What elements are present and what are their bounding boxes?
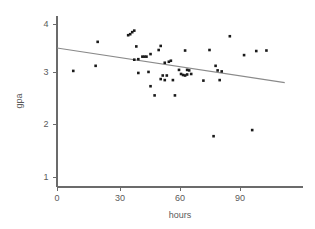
x-tick-label-90: 90 — [235, 193, 245, 203]
data-point — [172, 79, 175, 82]
data-point — [159, 45, 162, 48]
data-point — [174, 94, 177, 97]
data-point — [159, 78, 162, 81]
data-point — [137, 58, 140, 61]
data-point — [161, 74, 164, 77]
x-tick-label-30: 30 — [115, 193, 125, 203]
data-point — [137, 72, 140, 75]
data-point — [147, 71, 150, 74]
x-axis-ticks — [57, 187, 240, 191]
data-point — [229, 35, 232, 38]
data-point — [166, 74, 169, 77]
data-point — [96, 41, 99, 44]
plot-canvas: 4 3 2 1 0 30 60 90 hours gpa — [0, 0, 315, 229]
data-point — [202, 79, 205, 82]
x-axis-title: hours — [169, 210, 192, 220]
y-axis-title: gpa — [14, 93, 24, 108]
data-point — [149, 53, 152, 56]
data-point — [220, 70, 223, 73]
data-point — [186, 73, 189, 76]
data-point — [214, 65, 217, 68]
data-point — [251, 129, 254, 132]
data-point — [212, 135, 215, 138]
data-point — [163, 61, 166, 64]
data-point — [208, 49, 211, 52]
scatter-points-group — [72, 29, 268, 137]
data-point — [216, 69, 219, 72]
data-point — [163, 79, 166, 82]
data-point — [133, 58, 136, 61]
data-point — [153, 94, 156, 97]
data-point — [190, 73, 193, 76]
x-tick-label-0: 0 — [54, 193, 59, 203]
x-tick-label-60: 60 — [175, 193, 185, 203]
data-point — [188, 69, 191, 72]
data-point — [145, 55, 148, 58]
data-point — [135, 45, 138, 48]
data-point — [94, 65, 97, 68]
data-point — [133, 29, 136, 32]
y-tick-label-3: 3 — [43, 67, 48, 77]
y-tick-label-4: 4 — [43, 19, 48, 29]
data-point — [170, 59, 173, 62]
y-tick-label-2: 2 — [43, 119, 48, 129]
y-axis-ticks — [53, 24, 57, 177]
data-point — [178, 69, 181, 72]
data-point — [243, 54, 246, 57]
regression-line — [57, 48, 285, 83]
data-point — [157, 49, 160, 52]
data-point — [72, 70, 75, 73]
data-point — [218, 79, 221, 82]
scatter-plot-figure: 4 3 2 1 0 30 60 90 hours gpa — [0, 0, 315, 229]
data-point — [255, 50, 258, 53]
data-point — [265, 49, 268, 52]
data-point — [184, 49, 187, 52]
data-point — [149, 85, 152, 88]
y-tick-label-1: 1 — [43, 172, 48, 182]
